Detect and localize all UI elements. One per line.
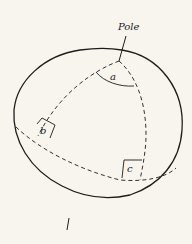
sphere-diagram: a b c Pole [0, 0, 192, 244]
pole-pointer-line [119, 36, 126, 61]
angle-b-label: b [40, 125, 46, 136]
bottom-pointer-line [67, 218, 69, 230]
angle-a-label: a [110, 71, 116, 82]
diagram-canvas: a b c Pole [0, 0, 192, 244]
angle-c-label: c [127, 163, 133, 174]
pole-label: Pole [117, 21, 140, 32]
meridian-left [38, 61, 119, 136]
